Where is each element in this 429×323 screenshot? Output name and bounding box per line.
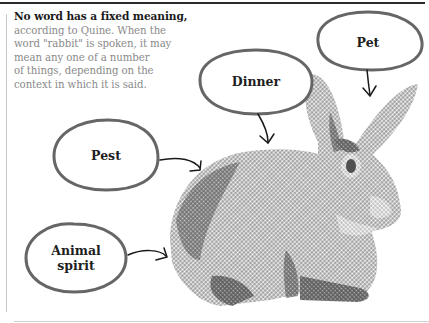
pet-label: Pet — [340, 35, 396, 50]
animal-spirit-label: Animal spirit — [36, 243, 116, 273]
rabbit-eye — [346, 159, 356, 173]
arrowhead-pest — [190, 161, 201, 171]
animal-spirit-label-line2: spirit — [36, 258, 116, 273]
animal-spirit-label-line1: Animal — [36, 243, 116, 258]
arrow-pest — [160, 158, 200, 168]
arrow-pet — [367, 70, 370, 95]
arrow-animal-spirit — [128, 251, 166, 256]
arrowhead-animal-spirit — [156, 248, 167, 260]
dinner-label: Dinner — [216, 74, 296, 89]
pest-label: Pest — [76, 148, 136, 163]
